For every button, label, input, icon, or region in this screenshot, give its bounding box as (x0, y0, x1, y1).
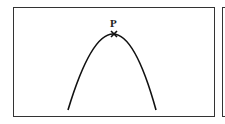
parabola-curve (68, 34, 156, 110)
point-label-p: P (110, 17, 117, 29)
